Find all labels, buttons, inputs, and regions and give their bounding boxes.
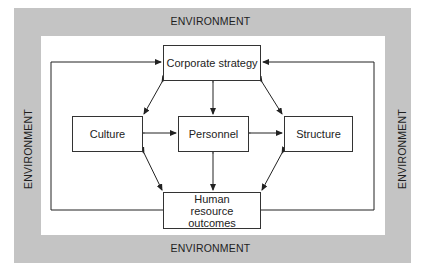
- node-culture: Culture: [72, 116, 143, 152]
- edge-strategy-structure: [262, 82, 282, 114]
- node-structure-label: Structure: [296, 128, 341, 140]
- node-hr-outcomes: Human resource outcomes: [163, 192, 261, 229]
- node-hr-outcomes-label: Human resource outcomes: [178, 193, 246, 229]
- node-corporate-strategy-label: Corporate strategy: [166, 57, 257, 69]
- edge-strategy-culture: [144, 82, 162, 114]
- node-culture-label: Culture: [90, 128, 125, 140]
- edge-culture-hr: [144, 153, 162, 190]
- node-structure: Structure: [284, 116, 353, 152]
- node-corporate-strategy: Corporate strategy: [163, 45, 261, 81]
- edge-structure-hr: [262, 153, 282, 190]
- node-personnel: Personnel: [178, 116, 249, 152]
- node-personnel-label: Personnel: [189, 128, 239, 140]
